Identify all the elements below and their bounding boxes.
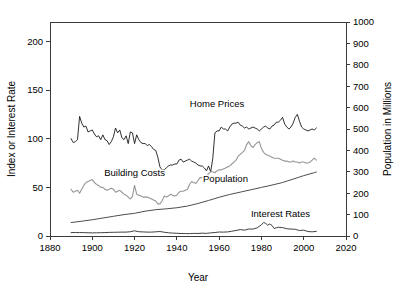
series-label-interest-rates: Interest Rates — [251, 208, 310, 219]
y-right-tick-label: 800 — [353, 59, 369, 70]
chart-container: 050100150200 010020030040050060070080090… — [0, 0, 402, 286]
x-axis-title: Year — [188, 272, 209, 283]
y-left-tick-label: 150 — [27, 84, 43, 95]
x-tick-label: 1920 — [124, 242, 145, 253]
y-left-tick-label: 50 — [32, 182, 43, 193]
x-tick-label: 1960 — [209, 242, 230, 253]
y-right-tick-label: 900 — [353, 38, 369, 49]
series-label-population: Population — [203, 173, 248, 184]
y-axis-right-title: Population in Millions — [382, 82, 393, 176]
y-axis-right-ticks: 01002003004005006007008009001000 — [346, 16, 374, 241]
y-left-tick-label: 200 — [27, 36, 43, 47]
y-right-tick-label: 300 — [353, 166, 369, 177]
y-right-tick-label: 100 — [353, 209, 369, 220]
x-tick-label: 1900 — [82, 242, 103, 253]
series-label-home-prices: Home Prices — [190, 98, 245, 109]
y-left-tick-label: 100 — [27, 133, 43, 144]
y-right-tick-label: 1000 — [353, 16, 374, 27]
y-axis-left-ticks: 050100150200 — [27, 36, 50, 242]
series-label-building-costs: Building Costs — [104, 167, 165, 178]
y-left-tick-label: 0 — [38, 230, 43, 241]
y-right-tick-label: 700 — [353, 81, 369, 92]
y-right-tick-label: 600 — [353, 102, 369, 113]
x-tick-label: 1940 — [166, 242, 187, 253]
y-axis-left-title: Index or Interest Rate — [6, 80, 17, 177]
x-axis-ticks: 18801900192019401960198020002020 — [39, 236, 356, 253]
x-tick-label: 1980 — [251, 242, 272, 253]
x-tick-label: 2000 — [293, 242, 314, 253]
y-right-tick-label: 400 — [353, 145, 369, 156]
shiller-home-price-chart: 050100150200 010020030040050060070080090… — [0, 0, 402, 286]
y-right-tick-label: 200 — [353, 188, 369, 199]
y-right-tick-label: 0 — [353, 230, 358, 241]
x-tick-label: 2020 — [335, 242, 356, 253]
y-right-tick-label: 500 — [353, 123, 369, 134]
x-tick-label: 1880 — [39, 242, 60, 253]
